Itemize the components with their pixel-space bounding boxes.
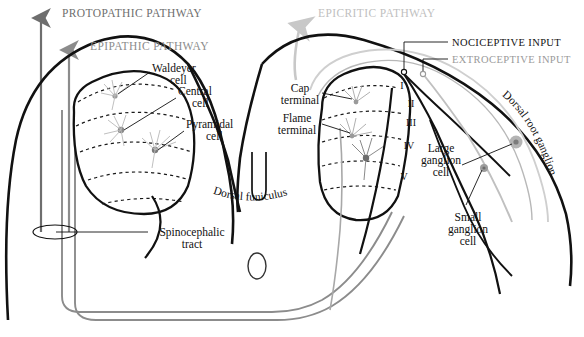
lamina-numeral-I: I (400, 80, 403, 91)
central-canal-ellipse (248, 253, 266, 279)
svg-text:Flame: Flame (283, 112, 312, 124)
svg-text:cell: cell (433, 166, 450, 178)
lamina-numeral-IV: IV (404, 140, 415, 151)
label-spinocephalic-tract: Spinocephalic tract (159, 226, 224, 250)
label-dorsal-funiculus: Dorsal funiculus (212, 184, 289, 202)
svg-text:terminal: terminal (281, 94, 319, 106)
label-flame-terminal: Flame terminal (278, 112, 316, 136)
diagram-canvas: PROTOPATHIC PATHWAY EPIPATHIC PATHWAY EP… (0, 0, 584, 337)
label-cap-terminal: Cap terminal (281, 82, 319, 106)
input-label-extroceptive: EXTROCEPTIVE INPUT (452, 54, 571, 65)
svg-text:Small: Small (455, 211, 482, 223)
large-ganglion-cell-body (510, 136, 523, 149)
spinal-cord-diagram: PROTOPATHIC PATHWAY EPIPATHIC PATHWAY EP… (0, 0, 584, 337)
pathway-label-epipathic: EPIPATHIC PATHWAY (90, 40, 209, 52)
lamina-numeral-II: II (408, 98, 415, 109)
left-dorsal-horn (74, 71, 195, 214)
pathway-label-protopathic: PROTOPATHIC PATHWAY (62, 7, 202, 19)
svg-text:tract: tract (182, 238, 203, 250)
svg-text:cell: cell (460, 235, 477, 247)
svg-text:cell: cell (192, 97, 209, 109)
epicritic-pathway-arrow (295, 26, 300, 80)
label-dorsal-root-ganglion: Dorsal root ganglion (501, 88, 560, 177)
pathway-label-epicritic: EPICRITIC PATHWAY (318, 7, 436, 19)
svg-text:cell: cell (206, 130, 223, 142)
svg-text:Central: Central (178, 85, 212, 97)
lamina-numeral-III: III (406, 117, 416, 128)
svg-text:terminal: terminal (278, 124, 316, 136)
input-label-nociceptive: NOCICEPTIVE INPUT (452, 37, 561, 48)
lamina-numeral-V: V (400, 171, 408, 182)
right-dorsal-horn (318, 67, 410, 220)
